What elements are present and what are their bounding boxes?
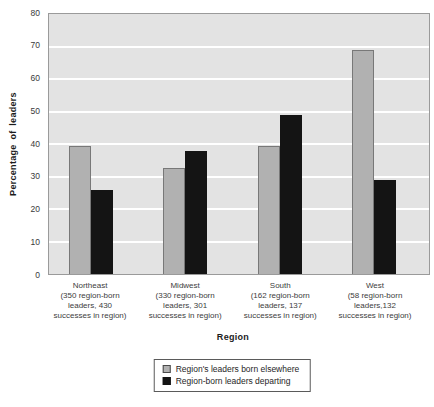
category-label-line: Northeast	[54, 281, 127, 291]
category-label-line: successes in region)	[149, 311, 222, 321]
bar-west	[374, 180, 396, 274]
category-label-line: leaders, 430	[54, 301, 127, 311]
category-label-south: South(162 region-bornleaders, 137success…	[244, 281, 317, 321]
legend-label: Region's leaders born elsewhere	[176, 365, 300, 374]
category-label-line: (330 region-born	[149, 291, 222, 301]
category-label-line: South	[244, 281, 317, 291]
bar-south	[258, 146, 280, 274]
category-label-line: successes in region)	[54, 311, 127, 321]
y-tick-label: 60	[31, 74, 40, 83]
legend-item-departing: Region-born leaders departing	[163, 377, 300, 386]
category-label-northeast: Northeast(350 region-bornleaders, 430suc…	[54, 281, 127, 321]
bar-midwest	[185, 151, 207, 275]
bar-chart-figure: Percentage of leaders 01020304050607080 …	[0, 0, 434, 407]
category-label-line: (350 region-born	[54, 291, 127, 301]
bar-group-south	[258, 14, 302, 274]
gray-swatch-icon	[163, 365, 171, 373]
bar-northeast	[91, 190, 113, 275]
legend-label: Region-born leaders departing	[176, 377, 291, 386]
y-tick-label: 70	[31, 42, 40, 51]
y-tick-label: 10	[31, 238, 40, 247]
bar-group-northeast	[69, 14, 113, 274]
category-label-line: leaders, 301	[149, 301, 222, 311]
y-tick-label: 0	[35, 271, 40, 280]
bar-south	[280, 115, 302, 274]
category-label-line: leaders, 137	[244, 301, 317, 311]
category-label-line: leaders,132	[339, 301, 412, 311]
x-axis-title: Region	[48, 332, 418, 342]
category-label-line: (58 region-born	[339, 291, 412, 301]
category-label-line: successes in region)	[244, 311, 317, 321]
y-axis-ticks: 01020304050607080	[0, 13, 43, 275]
y-tick-label: 50	[31, 107, 40, 116]
legend-item-born-elsewhere: Region's leaders born elsewhere	[163, 365, 300, 374]
x-axis-category-labels: Northeast(350 region-bornleaders, 430suc…	[48, 281, 430, 327]
y-tick-label: 40	[31, 140, 40, 149]
plot-area	[48, 13, 430, 275]
black-swatch-icon	[163, 377, 171, 385]
category-label-west: West(58 region-bornleaders,132successes …	[339, 281, 412, 321]
legend-box: Region's leaders born elsewhere Region-b…	[154, 359, 311, 392]
category-label-line: West	[339, 281, 412, 291]
y-tick-label: 80	[31, 9, 40, 18]
category-label-line: (162 region-born	[244, 291, 317, 301]
bar-midwest	[163, 168, 185, 274]
y-tick-label: 20	[31, 205, 40, 214]
bar-group-midwest	[163, 14, 207, 274]
category-label-line: Midwest	[149, 281, 222, 291]
bar-west	[352, 50, 374, 274]
bar-group-west	[352, 14, 396, 274]
bar-northeast	[69, 146, 91, 274]
y-tick-label: 30	[31, 173, 40, 182]
category-label-midwest: Midwest(330 region-bornleaders, 301succe…	[149, 281, 222, 321]
category-label-line: successes in region)	[339, 311, 412, 321]
